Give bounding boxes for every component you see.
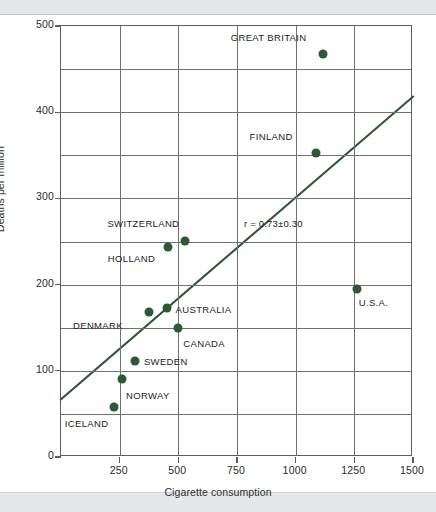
data-point-label: FINLAND <box>250 131 293 142</box>
y-axis-tick <box>55 25 61 26</box>
data-point[interactable] <box>130 356 139 365</box>
gridline-vertical <box>120 26 121 455</box>
x-axis-tick <box>178 457 179 463</box>
y-axis-tick <box>55 456 61 457</box>
gridline-vertical <box>178 26 179 455</box>
x-axis-tick-label: 1250 <box>341 464 365 476</box>
x-axis-tick-label: 1000 <box>283 464 307 476</box>
data-point[interactable] <box>311 148 320 157</box>
scatter-chart: GREAT BRITAINFINLANDSWITZERLANDHOLLANDU.… <box>0 0 436 512</box>
y-axis-tick-label: 0 <box>48 449 54 461</box>
x-axis-tick <box>354 457 355 463</box>
data-point[interactable] <box>118 374 127 383</box>
y-axis-tick <box>55 370 61 371</box>
data-point[interactable] <box>318 49 327 58</box>
gridline-vertical <box>354 26 355 455</box>
gridline-horizontal <box>61 371 411 372</box>
y-axis-tick <box>55 112 61 113</box>
x-axis-tick-label: 1500 <box>400 464 424 476</box>
y-axis-tick-label: 200 <box>36 277 54 289</box>
data-point-label: ICELAND <box>65 418 109 429</box>
x-axis-tick <box>119 457 120 463</box>
data-point[interactable] <box>181 236 190 245</box>
y-axis-tick-label: 400 <box>36 104 54 116</box>
x-axis-tick-label: 250 <box>110 464 128 476</box>
data-point-label: AUSTRALIA <box>176 304 232 315</box>
gridline-horizontal <box>61 112 411 113</box>
plot-area: GREAT BRITAINFINLANDSWITZERLANDHOLLANDU.… <box>60 25 412 456</box>
y-axis-title: Deaths per million <box>0 146 6 232</box>
y-axis-tick <box>55 198 61 199</box>
data-point-label: U.S.A. <box>359 297 389 308</box>
gridline-horizontal <box>61 155 411 156</box>
data-point-label: GREAT BRITAIN <box>231 32 307 43</box>
gridline-horizontal <box>61 69 411 70</box>
data-point[interactable] <box>352 284 361 293</box>
gridline-vertical <box>296 26 297 455</box>
data-point-label: NORWAY <box>126 390 170 401</box>
data-point[interactable] <box>109 403 118 412</box>
x-axis-tick-label: 500 <box>168 464 186 476</box>
x-axis-tick <box>412 457 413 463</box>
page-canvas: GREAT BRITAINFINLANDSWITZERLANDHOLLANDU.… <box>0 0 436 512</box>
gridline-horizontal <box>61 242 411 243</box>
y-axis-tick-label: 500 <box>36 18 54 30</box>
y-axis-tick <box>55 284 61 285</box>
data-point[interactable] <box>162 303 171 312</box>
data-point-label: CANADA <box>183 338 225 349</box>
data-point-label: HOLLAND <box>108 253 155 264</box>
x-axis-tick <box>295 457 296 463</box>
gridline-horizontal <box>61 414 411 415</box>
data-point[interactable] <box>174 323 183 332</box>
data-point-label: SWEDEN <box>144 356 188 367</box>
x-axis-tick <box>236 457 237 463</box>
correlation-annotation: r = 0.73±0.30 <box>244 218 303 229</box>
y-axis-tick-label: 100 <box>36 363 54 375</box>
gridline-vertical <box>237 26 238 455</box>
gridline-horizontal <box>61 198 411 199</box>
data-point[interactable] <box>145 308 154 317</box>
y-axis-tick-label: 300 <box>36 190 54 202</box>
data-point-label: SWITZERLAND <box>107 218 179 229</box>
x-axis-tick-label: 750 <box>227 464 245 476</box>
x-axis-title: Cigarette consumption <box>0 486 436 498</box>
data-point[interactable] <box>163 242 172 251</box>
data-point-label: DENMARK <box>73 320 123 331</box>
